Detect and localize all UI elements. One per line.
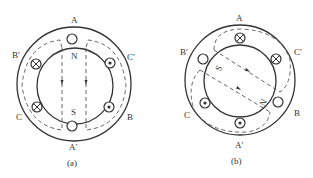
label-B: B [127,112,133,122]
flux-line-lower [200,70,270,112]
conductor-dot-icon [200,98,210,108]
conductor-empty-icon [273,97,283,107]
label-A: A [71,15,78,25]
caption-a: (a) [67,158,77,168]
arrow-icon [245,68,250,72]
flux-path-right [86,40,126,130]
label-C: C [184,110,190,120]
label-B-prime: B′ [12,50,20,60]
conductor-dot-icon [235,118,245,128]
caption-b: (b) [231,156,242,166]
conductor-cross-icon [31,59,41,69]
conductor-cross-icon [235,33,245,43]
pole-N: N [71,51,78,61]
conductor-dot-icon [104,102,114,112]
conductor-cross-icon [32,102,42,112]
label-A-prime: A′ [235,140,243,150]
conductor-empty-icon [198,54,208,64]
label-C-prime: C′ [294,47,302,57]
label-B-prime: B′ [180,47,188,57]
pole-S: S [213,64,224,73]
conductor-empty-icon [67,34,77,44]
arrow-down-icon [61,80,64,85]
label-A-prime: A′ [69,142,77,152]
label-A: A [236,13,243,23]
arrow-icon [236,86,241,90]
stator-rotor-diagrams: A A′ B′ C C′ B N S (a) [0,0,313,178]
pole-N: N [257,97,269,108]
figure-a: A A′ B′ C C′ B N S (a) [12,15,135,168]
conductor-empty-icon [67,121,77,131]
label-C: C [16,112,22,122]
conductor-dot-icon [105,58,115,68]
arrow-down-icon [85,80,88,85]
label-C-prime: C′ [127,52,135,62]
figure-b: A A′ B′ C C′ B S N (b) [180,13,302,166]
conductor-cross-icon [271,54,281,64]
pole-S: S [71,107,76,117]
label-B: B [294,108,300,118]
